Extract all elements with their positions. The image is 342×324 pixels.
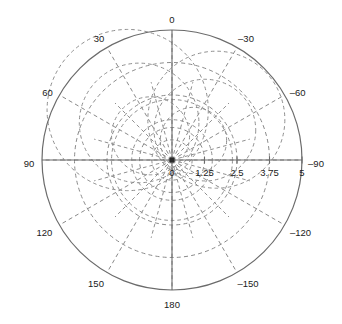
radial-label-3_75: 3.75 <box>260 167 279 178</box>
polar-plot-figure: 0–30–60–90–120–150180150120906030 01.252… <box>0 0 342 324</box>
radial-tick-label-layer: 01.252.53.755 <box>169 167 304 178</box>
radial-label-0: 0 <box>169 167 174 178</box>
overlay-spoke-330deg <box>172 82 193 160</box>
angular-label-120: 120 <box>36 227 52 238</box>
origin-marker <box>170 158 175 163</box>
grid-spoke-60deg <box>59 95 172 160</box>
polar-grid-overlay-layer <box>47 29 285 237</box>
overlay-eccentric-circle-b1 <box>160 107 226 173</box>
angular-label-150: 150 <box>88 278 104 289</box>
grid-spoke-30deg <box>107 47 172 160</box>
angular-label-neg60: –60 <box>290 87 306 98</box>
angular-label-60: 60 <box>42 87 53 98</box>
radial-label-5: 5 <box>299 167 304 178</box>
overlay-eccentric-circle-1 <box>112 97 190 175</box>
grid-spoke-150deg <box>107 160 172 273</box>
angular-label-180: 180 <box>164 299 180 310</box>
radial-label-2_5: 2.5 <box>230 167 243 178</box>
polar-origin-marker <box>170 158 175 163</box>
angular-label-neg120: –120 <box>290 227 311 238</box>
radial-label-1_25: 1.25 <box>195 167 214 178</box>
grid-spoke-300deg <box>172 95 285 160</box>
angular-label-neg30: –30 <box>238 33 254 44</box>
angular-label-neg150: –150 <box>237 278 258 289</box>
angular-label-90: 90 <box>24 158 35 169</box>
overlay-spoke-120deg <box>115 160 172 217</box>
polar-chart-canvas: 0–30–60–90–120–150180150120906030 01.252… <box>0 0 342 324</box>
angular-label-neg90: –90 <box>308 158 324 169</box>
overlay-eccentric-circle-3 <box>47 29 208 190</box>
angular-label-30: 30 <box>94 33 105 44</box>
overlay-spoke-30deg <box>115 103 172 160</box>
angular-label-0: 0 <box>169 14 174 25</box>
overlay-spoke-180deg <box>172 160 193 238</box>
grid-spoke-120deg <box>59 160 172 225</box>
grid-spoke-330deg <box>172 47 237 160</box>
